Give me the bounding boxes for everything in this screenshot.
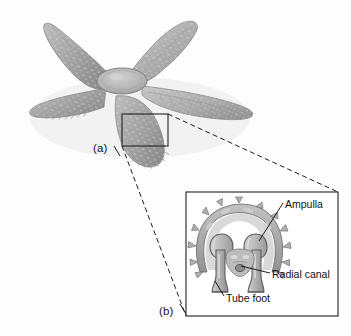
callout-label-ampulla: Ampulla bbox=[285, 198, 323, 210]
leader-line-lower bbox=[122, 146, 186, 316]
radial-canal-lumen bbox=[235, 264, 244, 271]
panel-label-a: (a) bbox=[93, 142, 107, 154]
callout-label-tube-foot: Tube foot bbox=[226, 292, 270, 304]
callout-label-radial-canal: Radial canal bbox=[272, 268, 330, 280]
figure-canvas bbox=[0, 0, 351, 336]
leader-line-upper bbox=[168, 114, 338, 192]
panel-label-ticks bbox=[114, 146, 186, 314]
tick-label-b bbox=[180, 304, 186, 314]
sea-star-central-disc bbox=[97, 68, 147, 94]
panel-label-b: (b) bbox=[159, 305, 173, 317]
